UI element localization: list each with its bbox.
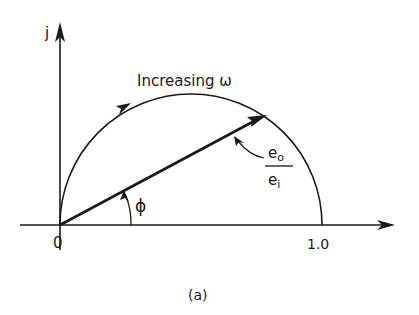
direction-label: Increasing ω <box>137 72 232 90</box>
phasor-denominator: e <box>268 171 277 189</box>
svg-text:ei: ei <box>268 171 280 191</box>
phasor-vector <box>60 115 267 225</box>
phasor-diagram: j 0 1.0 Increasing ω ϕ eo ei (a) <box>0 0 419 315</box>
phasor-numerator-sub: o <box>277 151 284 164</box>
phasor-label: eo ei <box>265 144 293 191</box>
angle-label: ϕ <box>135 196 146 216</box>
phasor-label-leader <box>237 140 264 158</box>
svg-text:eo: eo <box>268 144 284 164</box>
origin-label: 0 <box>53 234 63 252</box>
imaginary-axis-label: j <box>44 24 49 42</box>
leader-arrow-icon <box>234 136 244 146</box>
phasor-arrow-icon <box>247 115 267 127</box>
phasor-numerator: e <box>268 144 277 162</box>
phasor-denominator-sub: i <box>277 178 280 191</box>
figure-caption: (a) <box>188 287 208 303</box>
real-axis-mark-label: 1.0 <box>307 236 329 252</box>
real-axis <box>20 220 395 230</box>
